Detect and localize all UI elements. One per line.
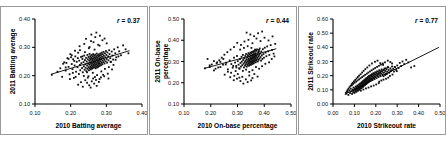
- x-tick-label: 0.10: [349, 110, 360, 116]
- x-axis-title: 2010 On-base percentage: [198, 122, 278, 130]
- panel-1-svg: 0.100.200.300.400.100.200.300.40r = 0.37…: [1, 7, 147, 136]
- regression-line: [345, 47, 439, 94]
- x-tick-label: 0.30: [232, 110, 243, 116]
- y-tick-label: 0.40: [19, 16, 30, 22]
- y-axis-title: 2011 On-base: [154, 40, 161, 83]
- x-tick-label: 0.50: [286, 110, 296, 116]
- y-axis-title: 2011 Strikeout rate: [307, 32, 314, 91]
- y-tick-label: 0.20: [19, 73, 30, 79]
- panel-on-base-percentage: 0.100.200.300.400.500.100.200.300.400.50…: [149, 6, 297, 135]
- regression-line: [204, 49, 276, 69]
- x-tick-label: 0.10: [179, 110, 190, 116]
- x-tick-label: 0.30: [101, 110, 112, 116]
- y-tick-label: 0.30: [317, 59, 328, 65]
- y-tick-label: 0.40: [168, 37, 179, 43]
- y-axis-title: 2011 Batting average: [9, 28, 17, 94]
- x-tick-label: 0.50: [435, 110, 445, 116]
- panel-3-svg: 0.000.100.200.300.400.500.600.000.100.20…: [299, 7, 445, 136]
- x-tick-label: 0.40: [413, 110, 424, 116]
- y-tick-label: 0.10: [317, 87, 328, 93]
- y-tick-label: 0.60: [317, 16, 328, 22]
- y-axis-title: percentage: [162, 44, 170, 80]
- y-tick-label: 0.30: [168, 59, 179, 65]
- x-tick-label: 0.10: [30, 110, 41, 116]
- x-tick-label: 0.40: [259, 110, 270, 116]
- y-tick-label: 0.20: [168, 80, 179, 86]
- y-tick-label: 0.50: [317, 30, 328, 36]
- x-tick-label: 0.00: [328, 110, 339, 116]
- y-tick-label: 0.10: [168, 101, 179, 107]
- x-axis-title: 2010 Strikeout rate: [357, 122, 416, 129]
- y-tick-label: 0.00: [317, 101, 328, 107]
- scatter-points: [51, 32, 129, 89]
- x-tick-label: 0.20: [370, 110, 381, 116]
- correlation-annotation: r = 0.77: [415, 17, 438, 24]
- y-tick-label: 0.10: [19, 101, 30, 107]
- x-axis-title: 2010 Batting average: [56, 122, 122, 130]
- x-tick-label: 0.30: [392, 110, 403, 116]
- panel-strikeout-rate: 0.000.100.200.300.400.500.600.000.100.20…: [298, 6, 446, 135]
- panel-batting-average: 0.100.200.300.400.100.200.300.40r = 0.37…: [0, 6, 148, 135]
- x-tick-label: 0.20: [65, 110, 76, 116]
- panel-2-svg: 0.100.200.300.400.500.100.200.300.400.50…: [150, 7, 296, 136]
- x-tick-label: 0.40: [137, 110, 147, 116]
- x-tick-label: 0.20: [205, 110, 216, 116]
- scatter-points: [204, 31, 276, 85]
- correlation-annotation: r = 0.44: [266, 17, 289, 24]
- y-tick-label: 0.30: [19, 44, 30, 50]
- y-tick-label: 0.50: [168, 16, 179, 22]
- y-tick-label: 0.20: [317, 73, 328, 79]
- correlation-annotation: r = 0.37: [117, 17, 140, 24]
- y-tick-label: 0.40: [317, 44, 328, 50]
